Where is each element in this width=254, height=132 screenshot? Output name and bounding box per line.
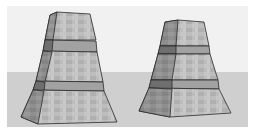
render-scene bbox=[0, 0, 254, 132]
scene-canvas bbox=[0, 0, 254, 132]
